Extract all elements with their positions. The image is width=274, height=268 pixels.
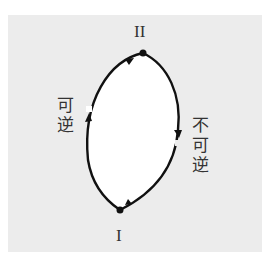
irreversible-label-char: 可 <box>190 136 210 156</box>
irreversible-label-char: 逆 <box>190 156 210 176</box>
reversible-label: 可 逆 <box>55 96 75 136</box>
state-point-I <box>117 207 124 214</box>
path-gap-left <box>86 106 92 112</box>
state-label-II: II <box>134 22 145 42</box>
cycle-interior <box>87 53 178 210</box>
state-point-II <box>140 50 147 57</box>
irreversible-label: 不 可 逆 <box>190 116 210 176</box>
reversible-label-char: 逆 <box>55 116 75 136</box>
irreversible-label-char: 不 <box>190 116 210 136</box>
reversible-label-char: 可 <box>55 96 75 116</box>
path-gap-right <box>175 140 181 146</box>
state-label-I: I <box>116 226 122 246</box>
